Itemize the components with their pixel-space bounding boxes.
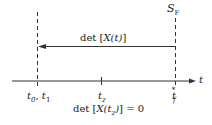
tick-label-t0-t1: t0, t1 (27, 91, 50, 101)
condition-var: X (96, 103, 103, 114)
tick-label-tz: tz (98, 91, 106, 101)
surface-label-sub: F (175, 9, 180, 17)
axis-label: t (199, 75, 203, 85)
tick-tf-sup: * (172, 86, 176, 94)
condition-label: det [X(tz)] = 0 (73, 104, 144, 114)
tick-t1-sub: 1 (46, 96, 50, 104)
condition-prefix: det [ (73, 103, 96, 114)
surface-label-main: S (167, 2, 175, 15)
tick-tf-sub: f (173, 96, 176, 104)
surface-label: SF (167, 3, 179, 14)
arrow-label-suffix: ] (122, 32, 126, 43)
arrow-label: det [X(t)] (80, 33, 126, 43)
arrow-label-prefix: det [ (80, 32, 103, 43)
tick-label-tf: tf* (172, 91, 175, 101)
arrow-label-var: X (103, 32, 110, 43)
condition-suffix: ] = 0 (119, 103, 144, 114)
left-arrowhead-icon (38, 44, 46, 49)
arrow-label-arg: (t) (111, 32, 123, 43)
time-axis-arrowhead-icon (189, 79, 196, 84)
